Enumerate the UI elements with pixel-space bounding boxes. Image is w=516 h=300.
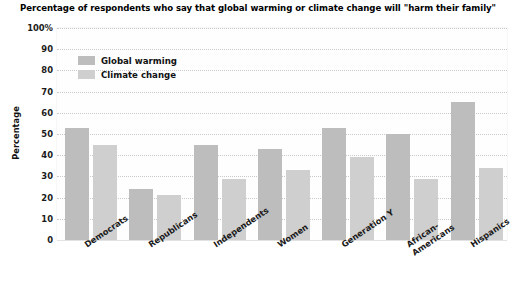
y-axis-tick-label: 20 [7, 193, 53, 203]
y-axis-tick-label: 10 [7, 214, 53, 224]
bar [322, 128, 346, 240]
bar-group [186, 28, 250, 240]
y-axis-tick-label: 90 [7, 44, 53, 54]
bar-group [314, 28, 378, 240]
chart-title: Percentage of respondents who say that g… [0, 3, 516, 13]
bar [194, 145, 218, 240]
legend-label: Global warming [101, 56, 177, 66]
y-axis-tick-label: 0 [7, 235, 53, 245]
y-axis-tick-label: 40 [7, 150, 53, 160]
bar [451, 102, 475, 240]
bar [65, 128, 89, 240]
legend-item: Global warming [78, 54, 177, 67]
legend: Global warmingClimate change [78, 54, 177, 82]
y-axis-tick-label: 80 [7, 65, 53, 75]
bar [258, 149, 282, 240]
y-axis-tick-label: 50 [7, 129, 53, 139]
y-axis-tick-label: 30 [7, 171, 53, 181]
legend-item: Climate change [78, 68, 177, 81]
legend-swatch [78, 56, 95, 65]
bar [129, 189, 153, 240]
x-axis-tick-labels: DemocratsRepublicansIndependentsWomenGen… [57, 242, 507, 300]
y-axis-tick-label: 70 [7, 87, 53, 97]
bar-chart: Percentage of respondents who say that g… [0, 0, 516, 300]
y-axis-tick-label: 60 [7, 108, 53, 118]
bar-group [443, 28, 507, 240]
bar [386, 134, 410, 240]
legend-swatch [78, 70, 95, 79]
legend-label: Climate change [101, 70, 176, 80]
y-axis-tick-label: 100% [7, 23, 53, 33]
